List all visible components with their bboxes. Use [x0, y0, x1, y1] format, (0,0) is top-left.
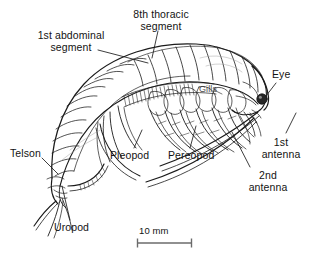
label-1st-abdominal-segment: 1st abdominal segment: [26, 30, 116, 54]
label-1st-antenna: 1st antenna: [258, 137, 304, 161]
label-uropod: Uropod: [54, 222, 89, 234]
leader-thoracic-segment: [152, 31, 158, 58]
scale-bar-label: 10 mm: [139, 225, 169, 237]
leader-antenna2: [232, 132, 250, 167]
label-pleopod: Pleopod: [110, 150, 149, 162]
label-8th-thoracic-segment-line2: segment: [118, 21, 204, 33]
label-1st-antenna-line2: antenna: [258, 149, 304, 161]
label-8th-thoracic-segment: 8th thoracic segment: [118, 9, 204, 33]
label-2nd-antenna-line2: antenna: [240, 182, 296, 194]
leader-antenna1: [286, 113, 296, 133]
label-gills: Gills: [199, 84, 217, 96]
label-pereopod: Pereopod: [168, 150, 214, 162]
leader-telson: [42, 158, 58, 174]
leader-uropod: [62, 186, 70, 220]
label-eye: Eye: [272, 69, 290, 81]
label-telson: Telson: [10, 148, 41, 160]
label-1st-abdominal-segment-line2: segment: [26, 42, 116, 54]
label-2nd-antenna: 2nd antenna: [240, 170, 296, 194]
scale-bar-graphic: [137, 239, 192, 248]
crustacean-anatomy-figure: 1st abdominal segment 8th thoracic segme…: [0, 0, 310, 255]
